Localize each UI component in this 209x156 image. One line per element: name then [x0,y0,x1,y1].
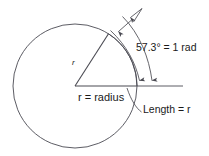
diagram-canvas [0,0,209,156]
arrow-to-slant-endpoint [119,21,132,32]
slanted-radius-line [75,34,109,86]
radian-diagram-figure: r r = radius 57.3° = 1 rad Length = r [0,0,209,156]
arc-length-label: Length = r [143,104,191,115]
length-leader-line [127,88,142,112]
radius-baseline-label: r = radius [78,92,124,103]
arrow-to-arc-start [131,9,143,18]
angle-label: 57.3° = 1 rad [136,42,197,53]
tick-outer-top [134,9,143,23]
radius-mark-label: r [72,59,75,67]
